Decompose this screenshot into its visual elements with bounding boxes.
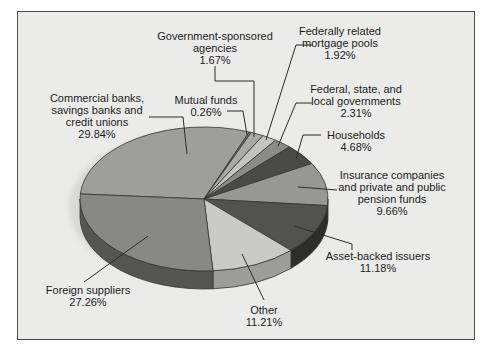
label-line: mortgage pools <box>260 37 420 49</box>
label-other: Other11.21% <box>184 304 344 328</box>
label-line: Foreign suppliers <box>8 284 168 296</box>
label-asset-backed-issuers: Asset-backed issuers11.18% <box>298 250 458 274</box>
label-pct: 4.68% <box>276 141 436 153</box>
label-mutual-funds: Mutual funds0.26% <box>126 94 286 118</box>
label-line: local governments <box>276 95 436 107</box>
label-pct: 0.26% <box>126 106 286 118</box>
label-households: Households4.68% <box>276 129 436 153</box>
label-line: pension funds <box>312 193 472 205</box>
label-line: Federal, state, and <box>276 83 436 95</box>
label-pct: 2.31% <box>276 107 436 119</box>
label-line: Federally related <box>260 25 420 37</box>
label-line: Insurance companies <box>312 169 472 181</box>
label-pct: 11.21% <box>184 316 344 328</box>
label-pct: 29.84% <box>17 128 177 140</box>
label-pct: 9.66% <box>312 205 472 217</box>
label-line: Mutual funds <box>126 94 286 106</box>
label-line: and private and public <box>312 181 472 193</box>
label-federal-state-local-governments: Federal, state, andlocal governments2.31… <box>276 83 436 119</box>
label-line: Households <box>276 129 436 141</box>
label-pct: 27.26% <box>8 296 168 308</box>
label-pct: 11.18% <box>298 262 458 274</box>
label-pct: 1.92% <box>260 49 420 61</box>
label-line: Other <box>184 304 344 316</box>
label-line: Asset-backed issuers <box>298 250 458 262</box>
figure-page: Commercial banks,savings banks andcredit… <box>0 0 488 356</box>
label-federally-related-mortgage-pools: Federally relatedmortgage pools1.92% <box>260 25 420 61</box>
label-insurance-pension-funds: Insurance companiesand private and publi… <box>312 169 472 217</box>
pie-slice-foreign-suppliers <box>80 194 213 271</box>
label-foreign-suppliers: Foreign suppliers27.26% <box>8 284 168 308</box>
